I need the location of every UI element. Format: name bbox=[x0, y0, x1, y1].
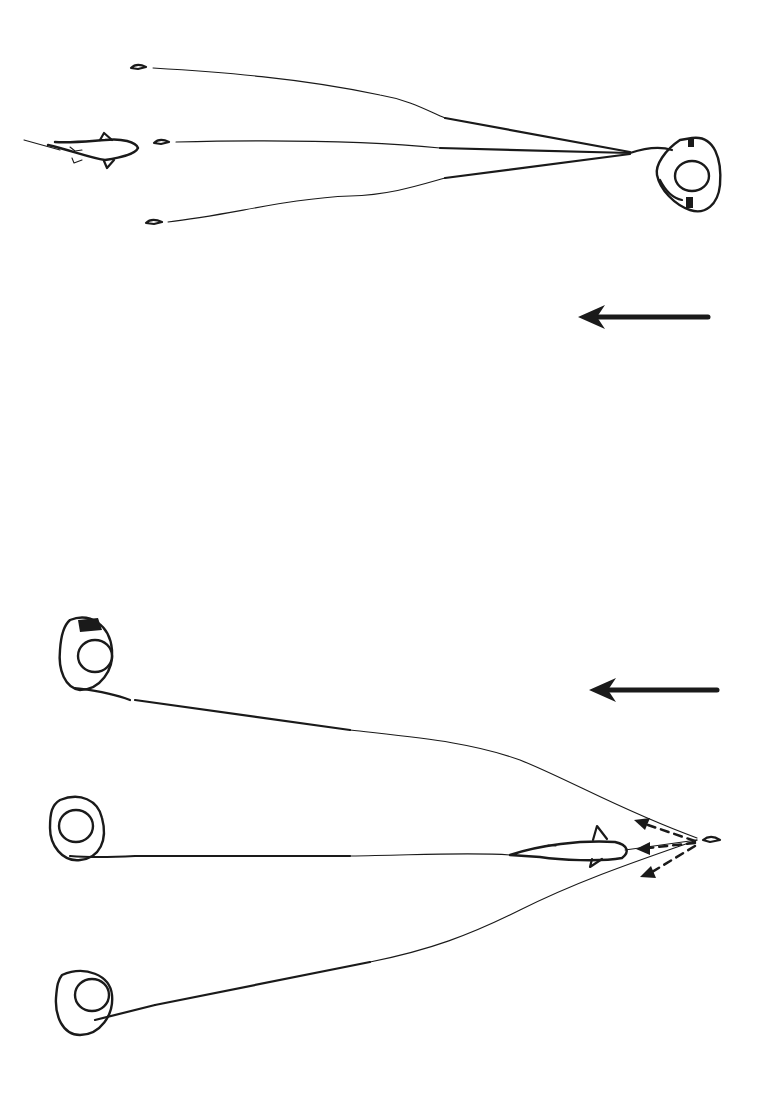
arrow-left-icon bbox=[589, 678, 717, 702]
dashed-retrieve-arrows bbox=[634, 818, 695, 878]
line-to-lure bbox=[625, 840, 697, 850]
rod-lower bbox=[445, 154, 630, 178]
lure-icon bbox=[703, 837, 720, 842]
angler-figure-bottom bbox=[56, 971, 155, 1035]
fish-icon bbox=[24, 133, 138, 168]
lure-icon-upper bbox=[131, 65, 146, 69]
top-panel bbox=[24, 65, 720, 329]
angler-figure-middle bbox=[50, 797, 135, 860]
line-upper bbox=[153, 68, 445, 118]
rod-bottom bbox=[155, 962, 370, 1005]
arrow-left-icon bbox=[578, 305, 708, 329]
line-middle-bottom bbox=[350, 854, 510, 856]
rod-top bbox=[135, 700, 350, 730]
lure-icon-lower bbox=[146, 220, 162, 224]
fishing-diagram bbox=[0, 0, 772, 1096]
line-lower bbox=[168, 178, 445, 222]
rod-middle bbox=[440, 148, 630, 153]
angler-figure bbox=[630, 138, 720, 212]
angler-figure-top bbox=[60, 618, 130, 700]
lure-icon-middle bbox=[154, 140, 169, 144]
line-bottom bbox=[370, 840, 697, 962]
line-middle bbox=[176, 141, 440, 148]
rod-upper bbox=[445, 118, 630, 152]
bottom-panel bbox=[50, 618, 720, 1035]
